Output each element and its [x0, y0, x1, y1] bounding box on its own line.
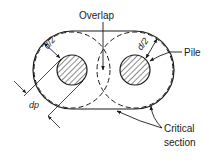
dp-arrow-lower — [48, 116, 60, 128]
punching-shear-diagram: Overlap Pile d/2 d/2 dp Critical section — [0, 0, 212, 160]
critical-section-arrow-arc — [151, 106, 162, 128]
left-pile — [57, 55, 87, 85]
critical-section-label-line2: section — [164, 137, 196, 148]
dp-extension-upper — [24, 59, 61, 96]
pile-label: Pile — [184, 47, 201, 58]
right-pile — [120, 55, 150, 85]
half-d-left-label: d/2 — [42, 35, 58, 51]
dp-arrow-upper — [14, 81, 26, 93]
dp-extension-lower — [48, 81, 83, 116]
dp-label: dp — [29, 100, 39, 110]
pile-arrow — [150, 52, 182, 61]
critical-section-label-line1: Critical — [164, 123, 195, 134]
half-d-right-label: d/2 — [135, 36, 150, 52]
overlap-label: Overlap — [79, 10, 114, 21]
